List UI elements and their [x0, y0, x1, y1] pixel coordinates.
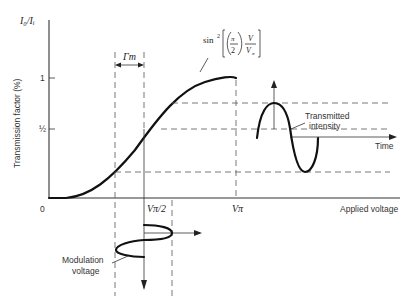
modulation-label-2: voltage [72, 266, 100, 276]
gamma-arrow-left [115, 63, 121, 68]
y-axis-label: Transmission factor (%) [12, 78, 22, 168]
time-arrow-head [389, 134, 397, 140]
formula-label: sin 2 π 2 V V π [200, 30, 260, 72]
x-origin-label: 0 [40, 204, 45, 214]
svg-text:V: V [248, 34, 254, 43]
bracket-left [223, 30, 225, 57]
transfer-curve [49, 77, 236, 198]
x-axis-label: Applied voltage [340, 204, 398, 214]
bias-arrow-head [141, 280, 147, 290]
modulation-label-1: Modulation [62, 255, 104, 265]
y-tick-label-1: 1 [40, 73, 45, 83]
x-tick-label-half-vpi: Vπ/2 [147, 203, 166, 214]
transmitted-pointer [291, 123, 305, 129]
y-axis-top-label: I₀/Iᵢ [19, 15, 35, 26]
x-tick-label-vpi: Vπ [232, 203, 244, 214]
paren-right [238, 32, 242, 55]
gamma-label: Γm [122, 51, 136, 62]
svg-text:π: π [231, 35, 235, 43]
transmitted-label-2: intensity [309, 121, 341, 131]
electro-optic-modulation-diagram: I₀/Iᵢ Transmission factor (%) 1 ½ 0 Appl… [0, 0, 416, 296]
svg-text:2: 2 [231, 46, 235, 55]
y-tick-label-half: ½ [39, 124, 46, 134]
modulation-pointer [112, 256, 128, 263]
gamma-arrow-right [138, 63, 144, 68]
svg-text:π: π [252, 51, 255, 56]
svg-text:sin: sin [203, 35, 214, 45]
modulation-time-arrow-head [194, 230, 202, 236]
intensity-arrow-head [271, 80, 277, 88]
time-label: Time [375, 141, 394, 151]
formula-pointer [200, 58, 208, 72]
transmitted-label-1: Transmitted [305, 111, 350, 121]
bracket-right [258, 30, 260, 57]
svg-text:2: 2 [217, 33, 220, 39]
